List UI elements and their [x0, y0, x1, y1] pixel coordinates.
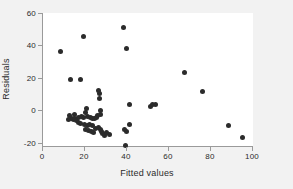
x-axis-title: Fitted values: [42, 168, 252, 178]
y-axis-tick: [38, 13, 42, 14]
x-axis-tick-label: 0: [40, 152, 45, 161]
x-axis-tick-label: 100: [245, 152, 259, 161]
y-axis-tick-label: 20: [27, 73, 36, 82]
data-point: [127, 122, 132, 127]
data-point: [182, 70, 187, 75]
data-point: [124, 129, 129, 134]
y-axis-tick-label: 60: [27, 9, 36, 18]
x-axis-tick: [210, 147, 211, 151]
data-point: [58, 49, 63, 54]
x-axis-tick-label: 20: [79, 152, 88, 161]
x-axis-tick: [42, 147, 43, 151]
y-axis-tick-label: -20: [24, 138, 36, 147]
x-axis-tick-label: 80: [205, 152, 214, 161]
data-point: [124, 46, 129, 51]
data-point: [226, 123, 231, 128]
data-point: [240, 135, 245, 140]
data-point: [200, 89, 205, 94]
y-axis-tick: [38, 143, 42, 144]
data-point: [121, 25, 126, 30]
y-axis-tick: [38, 78, 42, 79]
data-point: [97, 96, 102, 101]
y-axis-tick-label: 40: [27, 41, 36, 50]
plot-frame: [42, 13, 253, 147]
y-axis-tick-label: 0: [31, 106, 36, 115]
x-axis-tick: [126, 147, 127, 151]
data-point: [81, 34, 86, 39]
data-point: [78, 77, 83, 82]
data-point: [68, 77, 73, 82]
x-axis-tick-label: 60: [163, 152, 172, 161]
data-point: [66, 117, 71, 122]
y-axis-title: Residuals: [1, 58, 11, 99]
x-axis-tick: [168, 147, 169, 151]
y-axis-tick: [38, 45, 42, 46]
x-axis-tick-label: 40: [121, 152, 130, 161]
plot-canvas: [43, 13, 253, 146]
y-axis-tick: [38, 110, 42, 111]
x-axis-tick: [84, 147, 85, 151]
data-point: [153, 102, 158, 107]
x-axis-tick: [252, 147, 253, 151]
data-point: [94, 115, 99, 120]
residual-plot-figure: 020406080100-200204060 Fitted values Res…: [0, 0, 293, 189]
data-point: [127, 102, 132, 107]
